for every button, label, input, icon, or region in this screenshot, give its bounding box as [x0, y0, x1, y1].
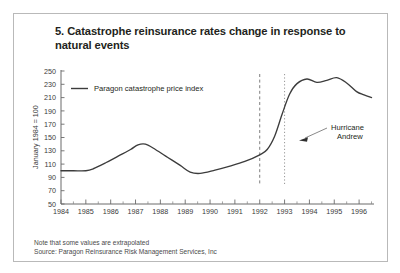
y-tick-label: 130 [44, 146, 56, 155]
x-axis-ticks [61, 200, 359, 205]
footnote-note: Note that some values are extrapolated [34, 239, 217, 248]
y-tick-label: 70 [48, 186, 56, 195]
x-tick-label: 1992 [252, 207, 268, 216]
x-tick-label: 1993 [277, 207, 293, 216]
x-axis-tick-labels: 1984198519861987198819891990199119921993… [53, 207, 367, 216]
x-tick-label: 1994 [301, 207, 317, 216]
reference-lines-group [260, 74, 285, 186]
legend-item-label: Paragon catastrophe price index [94, 84, 204, 93]
x-tick-label: 1984 [53, 207, 69, 216]
x-tick-label: 1990 [202, 207, 218, 216]
line-chart-svg: 250230210190170150130110907050 198419851… [14, 14, 389, 263]
y-tick-label: 250 [44, 67, 56, 76]
annotation-arrow-head [299, 137, 308, 142]
y-tick-label: 170 [44, 120, 56, 129]
y-tick-label: 230 [44, 80, 56, 89]
y-axis-tick-labels: 250230210190170150130110907050 [44, 67, 56, 209]
chart-plot-area: 250230210190170150130110907050 198419851… [14, 14, 389, 263]
annotation-leader-line [305, 128, 327, 138]
x-tick-label: 1985 [78, 207, 94, 216]
x-tick-label: 1991 [227, 207, 243, 216]
y-tick-label: 210 [44, 93, 56, 102]
chart-figure-panel: 5. Catastrophe reinsurance rates change … [13, 13, 388, 262]
x-tick-label: 1989 [177, 207, 193, 216]
y-tick-label: 190 [44, 107, 56, 116]
y-tick-label: 110 [45, 160, 56, 169]
y-tick-label: 150 [44, 133, 56, 142]
hurricane-andrew-annotation: Hurricane Andrew [299, 123, 364, 142]
footnote-source: Source: Paragon Reinsurance Risk Managem… [34, 248, 217, 257]
y-axis-title: January 1984 = 100 [31, 105, 40, 169]
annotation-label-line2: Andrew [337, 132, 363, 141]
x-tick-label: 1996 [351, 207, 367, 216]
chart-legend: Paragon catastrophe price index [71, 84, 204, 93]
x-tick-label: 1986 [103, 207, 119, 216]
annotation-label-line1: Hurricane [331, 123, 364, 132]
x-tick-label: 1995 [326, 207, 342, 216]
x-tick-label: 1987 [128, 207, 144, 216]
x-tick-label: 1988 [152, 207, 168, 216]
y-axis-ticks [61, 71, 65, 204]
chart-footnotes: Note that some values are extrapolated S… [34, 239, 217, 256]
y-tick-label: 90 [48, 173, 56, 182]
